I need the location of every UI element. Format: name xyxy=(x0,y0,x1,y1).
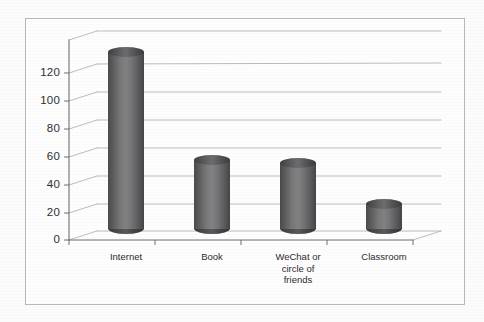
x-category-label-classroom: Classroom xyxy=(344,251,424,263)
x-category-label-book: Book xyxy=(172,251,252,263)
chart-plot-area: 120 100 80 60 40 20 0 xyxy=(0,0,484,322)
y-tick-label-60: 60 xyxy=(26,150,60,162)
gridline-depth-60 xyxy=(69,148,97,157)
x-category-label-wechat: WeChat or circle of friends xyxy=(258,251,338,286)
gridline-depth-ceiling xyxy=(69,31,97,40)
gridline-depth-80 xyxy=(69,120,97,129)
bar-book-cap xyxy=(194,155,230,165)
y-tick-label-0: 0 xyxy=(26,233,60,245)
bar-wechat-body xyxy=(280,163,316,229)
gridline-depth-20 xyxy=(69,204,97,213)
bar-book-body xyxy=(194,160,230,229)
gridline-depth-100 xyxy=(69,92,97,101)
chart-grid-svg xyxy=(0,0,484,322)
x-category-label-wechat-line1: WeChat or xyxy=(258,251,338,263)
bar-classroom-cap xyxy=(366,199,402,209)
x-category-label-internet: Internet xyxy=(86,251,166,263)
y-tick-label-40: 40 xyxy=(26,178,60,190)
bar-internet[interactable] xyxy=(108,47,144,237)
gridline-depth-0 xyxy=(69,231,97,240)
gridline-depth-40 xyxy=(69,176,97,185)
y-tick-label-100: 100 xyxy=(26,94,60,106)
bar-wechat-cap xyxy=(280,158,316,168)
x-tick-marks xyxy=(69,240,413,245)
y-tick-label-120: 120 xyxy=(26,66,60,78)
bar-classroom[interactable] xyxy=(366,199,402,237)
bar-internet-body xyxy=(108,52,144,229)
y-tick-label-80: 80 xyxy=(26,122,60,134)
bar-wechat-circle-of-friends[interactable] xyxy=(280,158,316,237)
chart-page: 120 100 80 60 40 20 0 xyxy=(0,0,484,322)
x-category-label-wechat-line2: circle of xyxy=(258,263,338,275)
x-category-label-wechat-line3: friends xyxy=(258,274,338,286)
y-tick-marks xyxy=(64,73,69,240)
bar-internet-cap xyxy=(108,47,144,57)
floor-right-edge xyxy=(413,231,441,240)
gridline-120 xyxy=(97,63,441,64)
y-tick-label-20: 20 xyxy=(26,206,60,218)
bar-book[interactable] xyxy=(194,155,230,237)
gridline-depth-120 xyxy=(69,64,97,73)
